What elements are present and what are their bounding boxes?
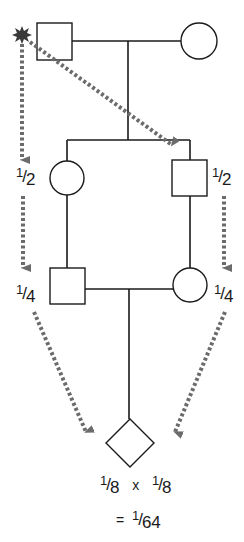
label-product: 1/8 x 1/8 xyxy=(100,476,171,493)
star-marker-icon xyxy=(12,26,32,44)
granddaughter-circle xyxy=(173,268,207,302)
fraction-eighth-left: 1/8 xyxy=(100,476,119,493)
ancestor-female-circle xyxy=(181,23,217,59)
offspring-diamond xyxy=(106,419,154,467)
label-half-right: 1/2 xyxy=(212,168,231,185)
label-quarter-right: 1/4 xyxy=(214,285,233,302)
arrow-left-3 xyxy=(34,312,86,432)
common-ancestor-male-square xyxy=(37,23,72,60)
fraction-result: 1/64 xyxy=(132,511,161,528)
daughter-circle xyxy=(50,161,84,195)
times-sign: x xyxy=(132,477,139,493)
son-square xyxy=(172,160,207,196)
label-quarter-left: 1/4 xyxy=(16,285,35,302)
equals-sign: = xyxy=(116,512,124,528)
pedigree-diagram xyxy=(0,0,244,542)
label-result: = 1/64 xyxy=(116,511,161,528)
arrow-right-3 xyxy=(175,312,225,432)
fraction-eighth-right: 1/8 xyxy=(152,476,171,493)
grandson-square xyxy=(50,268,85,304)
label-half-left: 1/2 xyxy=(16,168,35,185)
